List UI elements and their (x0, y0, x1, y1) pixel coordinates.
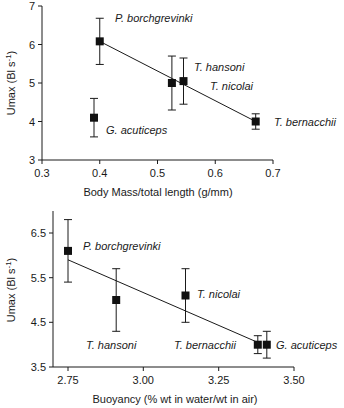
top-xtick: 0.7 (265, 167, 280, 179)
top-ytick: 5 (29, 77, 35, 89)
top-label-borchgrevinki: P. borchgrevinki (115, 12, 193, 24)
bottom-ytick: 3.5 (31, 361, 46, 373)
bottom-point-nicolai (182, 269, 190, 323)
bottom-label-nicolai: T. nicolai (197, 288, 241, 300)
top-y-ticks: 3 4 5 6 7 (29, 0, 42, 166)
top-x-ticks: 0.3 0.4 0.5 0.6 0.7 (34, 160, 280, 179)
bottom-y-label: Umax (Bl s-1) (4, 258, 17, 323)
bottom-regression-line (68, 260, 258, 343)
bottom-label-hansoni: T. hansoni (86, 339, 137, 351)
top-xtick: 0.3 (34, 167, 49, 179)
top-xtick: 0.6 (208, 167, 223, 179)
bottom-xtick: 3.00 (133, 374, 154, 386)
top-point-borchgrevinki (96, 18, 104, 64)
bottom-x-label: Buoyancy (% wt in water/wt in air) (92, 393, 257, 405)
top-xtick: 0.4 (92, 167, 107, 179)
top-ytick: 4 (29, 116, 35, 128)
bottom-label-acuticeps: G. acuticeps (276, 339, 338, 351)
bottom-xtick: 3.25 (208, 374, 229, 386)
top-label-nicolai: T. nicolai (210, 80, 254, 92)
top-x-label: Body Mass/total length (g/mm) (83, 186, 232, 198)
bottom-point-acuticeps (263, 331, 271, 358)
bottom-x-ticks: 2.75 3.00 3.25 3.50 (57, 367, 304, 386)
bottom-ytick: 5.5 (31, 272, 46, 284)
top-point-acuticeps (90, 98, 98, 136)
bottom-xtick: 2.75 (57, 374, 78, 386)
bottom-label-borchgrevinki: P. borchgrevinki (83, 240, 161, 252)
bottom-ytick: 4.5 (31, 316, 46, 328)
bottom-xtick: 3.50 (283, 374, 304, 386)
top-label-bernacchii: T. bernacchii (274, 116, 337, 128)
bottom-point-hansoni (112, 269, 120, 332)
bottom-label-bernacchii: T. bernacchii (174, 339, 237, 351)
top-label-hansoni: T. hansoni (194, 61, 245, 73)
bottom-point-borchgrevinki (64, 220, 72, 283)
bottom-y-ticks: 3.5 4.5 5.5 6.5 (31, 227, 53, 373)
top-point-nicolai (180, 58, 188, 104)
top-point-hansoni (168, 56, 176, 110)
top-y-label: Umax (Bl s-1) (4, 51, 17, 116)
bottom-chart: 3.5 4.5 5.5 6.5 2.75 3.00 3.25 3.50 Buoy… (4, 211, 338, 405)
top-ytick: 7 (29, 0, 35, 12)
top-ytick: 6 (29, 39, 35, 51)
top-chart: 3 4 5 6 7 0.3 0.4 0.5 0.6 0.7 Body Mass/… (4, 0, 337, 198)
bottom-point-bernacchii (254, 336, 262, 354)
top-ytick: 3 (29, 154, 35, 166)
bottom-ytick: 6.5 (31, 227, 46, 239)
figure: 3 4 5 6 7 0.3 0.4 0.5 0.6 0.7 Body Mass/… (0, 0, 344, 408)
top-label-acuticeps: G. acuticeps (106, 124, 168, 136)
top-xtick: 0.5 (150, 167, 165, 179)
top-point-bernacchii (252, 114, 260, 129)
